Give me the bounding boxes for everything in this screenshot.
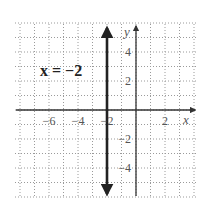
x-tick-label: −6 <box>43 114 56 128</box>
x-tick-label: −4 <box>72 114 85 128</box>
x-tick-label: 2 <box>162 114 168 128</box>
y-axis-label: y <box>122 24 130 39</box>
x-tick-label: −2 <box>101 114 114 128</box>
x-tick-labels: −6−4−22 <box>43 114 168 128</box>
y-tick-label: −2 <box>118 132 131 146</box>
graph: −6−4−22 42−2−4 x y x = −2 <box>0 0 211 202</box>
y-tick-label: 2 <box>125 74 131 88</box>
y-tick-label: 4 <box>125 45 131 59</box>
x-axis-label: x <box>182 112 189 127</box>
y-tick-label: −4 <box>118 161 131 175</box>
equation-label: x = −2 <box>40 62 82 79</box>
